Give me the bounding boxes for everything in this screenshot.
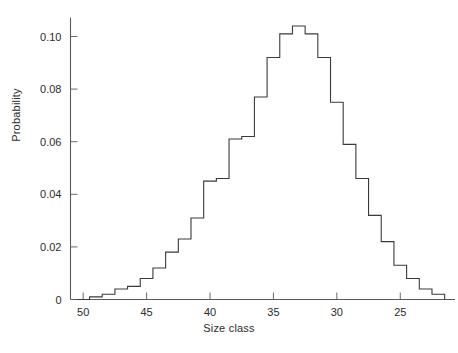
y-tick-label: 0.02 (40, 241, 61, 253)
histogram-step-line (77, 26, 445, 300)
y-tick-label: 0.06 (40, 136, 61, 148)
x-axis-title-label: Size class (203, 322, 255, 334)
x-tick-label: 45 (140, 306, 152, 318)
x-axis-ticks: 504540353025 (77, 293, 406, 318)
x-tick-label: 25 (394, 306, 406, 318)
y-tick-label: 0.04 (40, 188, 61, 200)
y-tick-label: 0.08 (40, 83, 61, 95)
y-axis-title: Probability (10, 5, 22, 115)
y-axis-ticks: 00.020.040.060.080.10 (40, 31, 77, 306)
plot-area: 00.020.040.060.080.10 504540353025 (0, 0, 458, 353)
x-tick-label: 30 (331, 306, 343, 318)
x-tick-label: 50 (77, 306, 89, 318)
y-axis-title-label: Probability (10, 60, 22, 170)
x-axis-title: Size class (0, 322, 458, 334)
y-tick-label: 0.10 (40, 31, 61, 43)
x-tick-label: 40 (204, 306, 216, 318)
y-tick-label: 0 (55, 294, 61, 306)
histogram-figure: Probability Size class 00.020.040.060.08… (0, 0, 458, 353)
x-tick-label: 35 (267, 306, 279, 318)
